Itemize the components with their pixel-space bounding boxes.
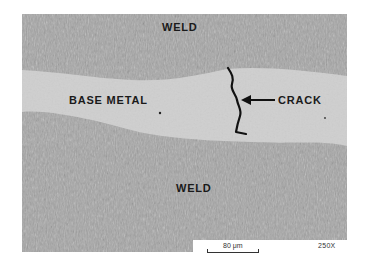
weld-label-top: WELD	[162, 21, 198, 33]
micrograph-texture	[22, 14, 347, 252]
inclusion-dot	[324, 117, 326, 119]
crack-label: CRACK	[278, 94, 322, 106]
base-metal-label: BASE METAL	[69, 94, 148, 106]
scale-bar-tick-right	[258, 249, 259, 253]
micrograph-image: WELD BASE METAL CRACK WELD	[22, 14, 347, 252]
inclusion-dot	[159, 112, 161, 114]
weld-label-bottom: WELD	[176, 182, 212, 194]
magnification-label: 250X	[318, 242, 336, 249]
scale-bar-line	[207, 252, 259, 253]
scale-bar-label: 80 μm	[223, 242, 243, 249]
scale-bar: 80 μm	[207, 244, 259, 254]
scale-bar-tick-left	[207, 249, 208, 253]
